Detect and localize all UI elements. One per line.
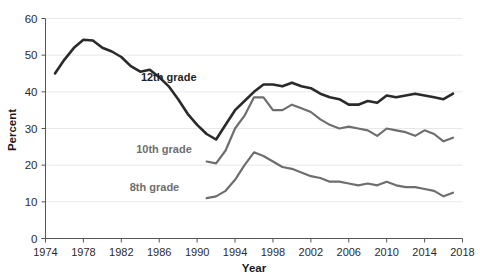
x-tick-label: 1994 — [223, 246, 247, 258]
x-tick-marks — [46, 239, 463, 243]
series-annotations-group: 12th grade10th grade8th grade — [130, 71, 197, 193]
line-chart: 0102030405060 19741978198219861990199419… — [0, 0, 480, 278]
chart-svg: 0102030405060 19741978198219861990199419… — [0, 0, 480, 278]
x-tick-label: 2010 — [374, 246, 398, 258]
series-label-8th-grade: 8th grade — [130, 181, 180, 193]
x-tick-label: 1986 — [147, 246, 171, 258]
x-tick-label: 1982 — [109, 246, 133, 258]
y-tick-label: 50 — [25, 49, 38, 61]
y-tick-marks — [42, 19, 46, 239]
x-tick-label: 1998 — [261, 246, 285, 258]
x-tick-label: 1974 — [33, 246, 57, 258]
series-line-10th-grade — [207, 97, 453, 163]
x-tick-label: 2002 — [299, 246, 323, 258]
series-label-10th-grade: 10th grade — [136, 143, 192, 155]
x-tick-label: 2006 — [337, 246, 361, 258]
x-tick-label: 1978 — [71, 246, 95, 258]
x-tick-label: 2018 — [450, 246, 474, 258]
x-tick-label: 2014 — [412, 246, 436, 258]
y-tick-label: 60 — [25, 13, 38, 25]
x-tick-labels: 1974197819821986199019941998200220062010… — [33, 246, 474, 258]
x-axis-title: Year — [242, 262, 267, 274]
gridlines-group — [46, 19, 463, 202]
y-axis-group: 0102030405060 — [25, 13, 46, 245]
y-tick-label: 40 — [25, 86, 38, 98]
x-axis-group: 1974197819821986199019941998200220062010… — [33, 239, 474, 258]
y-axis-title: Percent — [6, 109, 18, 151]
series-line-8th-grade — [207, 152, 453, 198]
data-series-group — [55, 40, 453, 198]
x-tick-label: 1990 — [185, 246, 209, 258]
y-tick-label: 30 — [25, 123, 38, 135]
y-tick-labels: 0102030405060 — [25, 13, 38, 245]
y-tick-label: 10 — [25, 196, 38, 208]
y-tick-label: 0 — [31, 233, 37, 245]
series-label-12th-grade: 12th grade — [141, 71, 197, 83]
y-tick-label: 20 — [25, 159, 38, 171]
